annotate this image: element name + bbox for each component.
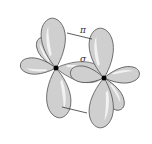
pi-label: π [79,25,87,35]
sigma-label: σ [80,54,87,64]
left-nucleus [54,66,59,71]
orbital-overlap-diagram: π σ [0,0,152,144]
right-nucleus [102,76,107,81]
